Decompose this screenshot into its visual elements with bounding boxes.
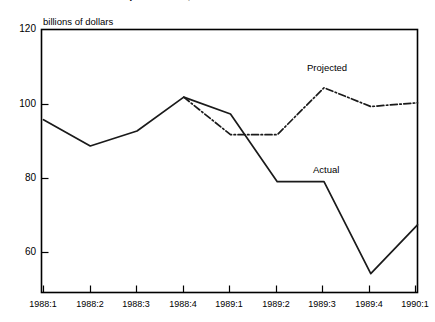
chart-canvas xyxy=(0,0,435,322)
series-line-projected xyxy=(184,88,418,135)
series-line-actual xyxy=(44,97,418,274)
y-axis-ticks xyxy=(42,105,49,253)
chart-figure: business expenditures, 1988-90 billions … xyxy=(0,0,435,322)
x-axis-ticks xyxy=(44,286,416,293)
